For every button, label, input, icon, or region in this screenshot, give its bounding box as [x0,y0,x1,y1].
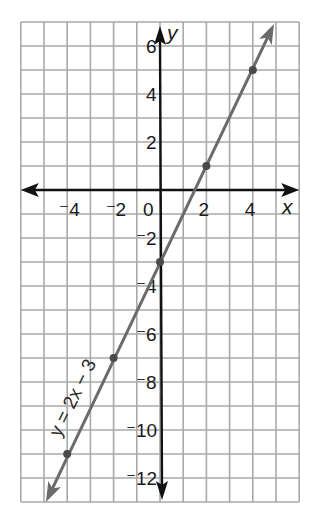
data-point [156,258,164,266]
x-tick-label: ⁻2 [106,199,127,220]
y-tick-label: ⁻2 [136,228,157,249]
coordinate-graph: ⁻4⁻2024642⁻2⁻4⁻6⁻8⁻10⁻12 x y y = 2x − 3 [0,0,316,521]
y-tick-label: 4 [146,84,157,105]
x-axis-label: x [281,195,294,218]
equation-label: y = 2x − 3 [45,356,100,440]
data-point [110,354,118,362]
x-tick-label: 2 [198,199,209,220]
x-tick-label: 0 [143,199,154,220]
data-point [202,162,210,170]
data-point [249,66,257,74]
x-tick-label: 4 [245,199,256,220]
data-point [63,450,71,458]
y-tick-label: 6 [146,36,157,57]
y-tick-label: 2 [146,132,157,153]
y-axis-label: y [165,21,179,44]
y-tick-label: ⁻6 [136,324,157,345]
y-tick-label: ⁻10 [126,420,157,441]
y-tick-label: ⁻8 [136,372,157,393]
x-tick-label: ⁻4 [59,199,80,220]
y-tick-label: ⁻12 [126,468,157,489]
